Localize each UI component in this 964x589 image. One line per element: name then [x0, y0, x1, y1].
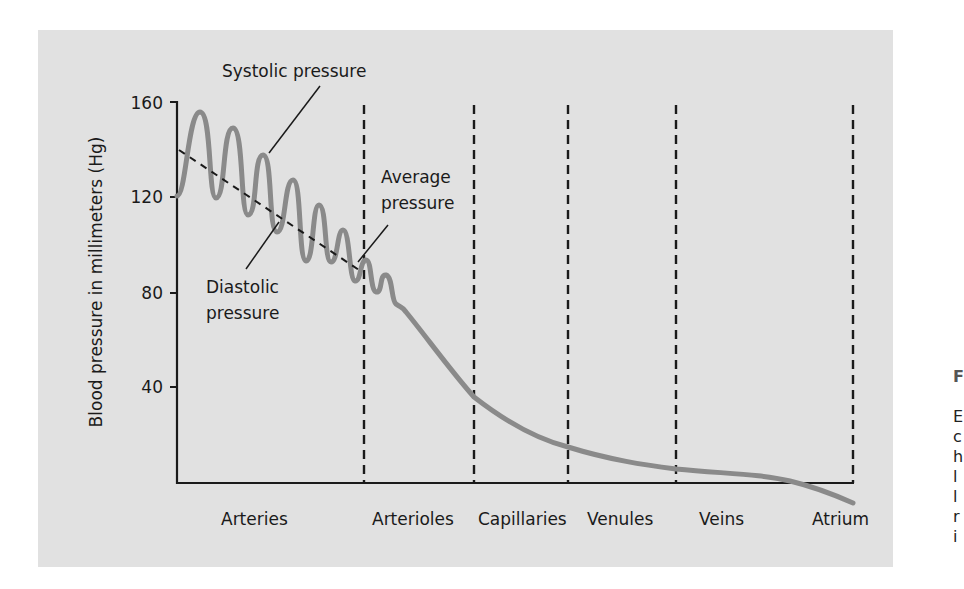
y-tick-80: 80: [141, 283, 163, 303]
region-label-veins: Veins: [699, 509, 744, 529]
y-tick-160: 160: [131, 93, 163, 113]
caption-fragment-2: c: [953, 428, 962, 446]
y-axis-label: Blood pressure in millimeters (Hg): [86, 137, 106, 428]
caption-heading-fragment: F: [953, 368, 964, 386]
diastolic-annotation-line1: Diastolic: [206, 277, 279, 297]
caption-fragment-4: l: [953, 468, 957, 486]
average-annotation-line2: pressure: [381, 193, 454, 213]
caption-fragment-3: h: [953, 448, 963, 466]
region-dividers: [364, 105, 853, 483]
caption-fragment-7: i: [953, 528, 957, 546]
y-tick-labels: 160 120 80 40: [131, 93, 163, 397]
caption-fragment-6: r: [953, 508, 960, 526]
average-annotation-line1: Average: [381, 167, 451, 187]
systolic-annotation: Systolic pressure: [222, 61, 366, 81]
y-tick-120: 120: [131, 187, 163, 207]
region-label-capillaries: Capillaries: [478, 509, 567, 529]
y-tick-40: 40: [141, 377, 163, 397]
region-label-atrium: Atrium: [812, 509, 869, 529]
region-label-venules: Venules: [587, 509, 653, 529]
region-label-arterioles: Arterioles: [372, 509, 454, 529]
caption-fragment-5: l: [953, 488, 957, 506]
region-labels: Arteries Arterioles Capillaries Venules …: [221, 509, 869, 529]
caption-fragment-1: E: [953, 408, 963, 426]
diastolic-annotation-line2: pressure: [206, 303, 279, 323]
region-label-arteries: Arteries: [221, 509, 288, 529]
